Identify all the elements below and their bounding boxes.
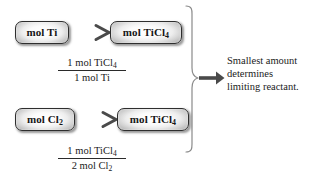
- node-mol-cl2-sub: 2: [59, 118, 63, 127]
- conclusion-caption-line-1: Smallest amount: [227, 54, 313, 67]
- conclusion-arrow-icon: [199, 72, 225, 85]
- conclusion-caption: Smallest amount determines limiting reac…: [227, 54, 313, 93]
- ratio-row2-denominator-sub: 2: [108, 164, 112, 173]
- ratio-row2-numerator-base: 1 mol TiCl: [67, 145, 113, 156]
- ratio-row1-denominator-base: 1 mol Ti: [74, 72, 110, 83]
- ratio-row1-denominator: 1 mol Ti: [58, 71, 126, 84]
- node-mol-cl2-base: mol Cl: [27, 113, 59, 125]
- ratio-row2-numerator: 1 mol TiCl4: [58, 145, 126, 159]
- ratio-row1-numerator: 1 mol TiCl4: [58, 57, 126, 71]
- node-mol-ticl4-row2-label: mol TiCl4: [130, 114, 176, 125]
- ratio-row2-numerator-sub: 4: [113, 149, 117, 158]
- node-mol-ticl4-row1: mol TiCl4: [110, 21, 182, 44]
- limiting-reactant-diagram: mol Ti mol TiCl4 mol Cl2 mol TiCl4 1 mol…: [0, 0, 313, 183]
- row2-arrow-icon: [75, 113, 116, 127]
- node-mol-ti-label: mol Ti: [26, 27, 57, 38]
- node-mol-ticl4-row2-sub: 4: [172, 118, 176, 127]
- grouping-brace: [186, 6, 198, 152]
- node-mol-ticl4-row1-label: mol TiCl4: [123, 27, 169, 38]
- conclusion-caption-line-3: limiting reactant.: [227, 80, 313, 93]
- node-mol-ticl4-row1-sub: 4: [165, 31, 169, 40]
- node-mol-cl2: mol Cl2: [15, 108, 75, 131]
- ratio-row1: 1 mol TiCl4 1 mol Ti: [58, 57, 126, 85]
- node-mol-ticl4-row2-base: mol TiCl: [130, 113, 172, 125]
- node-mol-ticl4-row1-base: mol TiCl: [123, 26, 165, 38]
- ratio-row2-denominator-base: 2 mol Cl: [72, 160, 109, 171]
- ratio-row1-numerator-base: 1 mol TiCl: [67, 57, 113, 68]
- node-mol-ti: mol Ti: [15, 21, 69, 44]
- node-mol-cl2-label: mol Cl2: [27, 114, 63, 125]
- node-mol-ticl4-row2: mol TiCl4: [117, 108, 189, 131]
- ratio-row2: 1 mol TiCl4 2 mol Cl2: [58, 145, 126, 173]
- ratio-row2-denominator: 2 mol Cl2: [58, 159, 126, 172]
- ratio-row1-numerator-sub: 4: [113, 61, 117, 70]
- conclusion-caption-line-2: determines: [227, 67, 313, 80]
- row1-arrow-icon: [69, 26, 109, 40]
